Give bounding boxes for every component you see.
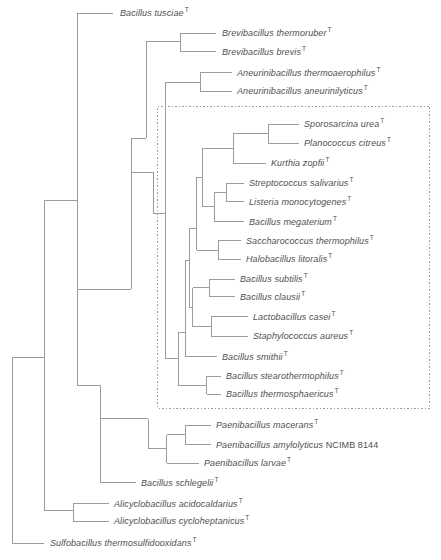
type-strain-marker: T <box>192 536 196 543</box>
type-strain-marker: T <box>370 234 374 241</box>
type-strain-marker: T <box>328 252 332 259</box>
type-strain-marker: T <box>349 329 353 336</box>
type-strain-marker: T <box>364 84 368 91</box>
type-strain-marker: T <box>302 45 306 52</box>
type-strain-marker: T <box>314 418 318 425</box>
type-strain-marker: T <box>333 215 337 222</box>
type-strain-marker: T <box>185 6 189 13</box>
taxon-label: Brevibacillus brevisT <box>222 47 306 57</box>
taxon-label: Bacillus smithiiT <box>222 352 288 362</box>
phylo-tree-svg <box>0 0 441 560</box>
type-strain-marker: T <box>376 66 380 73</box>
type-strain-marker: T <box>387 136 391 143</box>
taxon-label: Bacillus stearothermophilusT <box>226 371 344 381</box>
taxon-label: Bacillus subtilisT <box>240 274 308 284</box>
type-strain-marker: T <box>304 272 308 279</box>
taxon-label: Halobacillus litoralisT <box>246 254 332 264</box>
taxon-label: Alicyclobacillus cycloheptanicusT <box>114 516 249 526</box>
type-strain-marker: T <box>380 117 384 124</box>
type-strain-marker: T <box>287 456 291 463</box>
taxon-label: Streptococcus salivariusT <box>249 178 354 188</box>
type-strain-marker: T <box>214 476 218 483</box>
type-strain-marker: T <box>347 195 351 202</box>
taxon-label: Planococcus citreusT <box>304 138 391 148</box>
type-strain-marker: T <box>349 176 353 183</box>
taxon-label: Bacillus megateriumT <box>249 217 337 227</box>
type-strain-marker: T <box>284 350 288 357</box>
taxon-label: Staphylococcus aureusT <box>253 331 353 341</box>
taxon-label: Kurthia zopfiiT <box>271 158 330 168</box>
taxon-label: Aneurinibacillus thermoaerophilusT <box>237 68 380 78</box>
taxon-label: Lactobacillus caseiT <box>253 312 336 322</box>
taxon-label: Brevibacillus thermoruberT <box>222 28 332 38</box>
taxon-label: Bacillus schlegeliiT <box>141 478 219 488</box>
type-strain-marker: T <box>331 310 335 317</box>
type-strain-marker: T <box>301 290 305 297</box>
type-strain-marker: T <box>328 26 332 33</box>
taxon-label: Paenibacillus amylolyticus NCIMB 8144 <box>216 440 378 450</box>
taxon-label: Aneurinibacillus aneurinilyticusT <box>237 86 368 96</box>
taxon-label: Bacillus thermosphaericusT <box>226 389 339 399</box>
taxon-label: Bacillus tusciaeT <box>120 8 189 18</box>
type-strain-marker: T <box>340 369 344 376</box>
type-strain-marker: T <box>335 387 339 394</box>
phylogenetic-tree-figure: Bacillus tusciaeTBrevibacillus thermorub… <box>0 0 441 560</box>
type-strain-marker: T <box>245 514 249 521</box>
taxon-label: Listeria monocytogenesT <box>249 197 351 207</box>
taxon-label: Sporosarcina ureaT <box>304 119 384 129</box>
type-strain-marker: T <box>325 156 329 163</box>
taxon-label: Alicyclobacillus acidocaldariusT <box>114 499 243 509</box>
taxon-label: Paenibacillus maceransT <box>216 420 318 430</box>
taxon-label: Saccharococcus thermophilusT <box>246 236 374 246</box>
taxon-label: Sulfobacillus thermosulfidooxidansT <box>50 538 197 548</box>
type-strain-marker: T <box>239 497 243 504</box>
taxon-label: Paenibacillus larvaeT <box>204 458 291 468</box>
taxon-label: Bacillus clausiiT <box>240 292 305 302</box>
